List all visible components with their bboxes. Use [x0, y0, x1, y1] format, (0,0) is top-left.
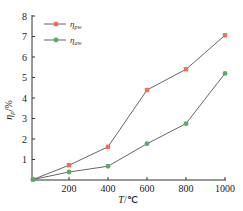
x-tick-label: 400 — [101, 183, 116, 194]
line-chart: 123456782004006008001000 ηpwηaw T/℃ ηp/% — [0, 0, 243, 211]
y-tick-label: 4 — [22, 93, 27, 104]
x-tick-label: 800 — [179, 183, 194, 194]
data-point-circle — [223, 71, 228, 76]
x-tick-label: 200 — [62, 183, 77, 194]
x-tick-label: 600 — [140, 183, 155, 194]
data-point-square — [145, 88, 149, 92]
data-point-circle — [106, 164, 111, 169]
data-point-circle — [67, 170, 72, 175]
y-tick-label: 7 — [22, 31, 27, 42]
series-line — [33, 35, 225, 179]
x-tick-label: 1000 — [215, 183, 235, 194]
data-point-square — [106, 145, 110, 149]
legend-label: ηaw — [70, 35, 81, 46]
legend: ηpwηaw — [44, 19, 81, 46]
y-tick-label: 6 — [22, 52, 27, 63]
data-point-square — [184, 67, 188, 71]
series-line — [33, 73, 225, 179]
y-tick-label: 5 — [22, 72, 27, 83]
data-point-square — [67, 163, 71, 167]
series-group — [31, 33, 228, 182]
data-point-circle — [145, 141, 150, 146]
legend-marker-circle — [54, 38, 59, 43]
y-tick-label: 3 — [22, 113, 27, 124]
y-tick-label: 1 — [22, 154, 27, 165]
legend-marker-square — [54, 22, 58, 26]
legend-label: ηpw — [70, 19, 81, 30]
y-axis-label: ηp/% — [3, 100, 16, 120]
data-point-circle — [184, 121, 189, 126]
y-tick-label: 8 — [22, 11, 27, 22]
x-axis-label: T/℃ — [118, 194, 137, 205]
y-tick-label: 2 — [22, 134, 27, 145]
data-point-square — [223, 33, 227, 37]
data-point-circle — [31, 177, 36, 182]
